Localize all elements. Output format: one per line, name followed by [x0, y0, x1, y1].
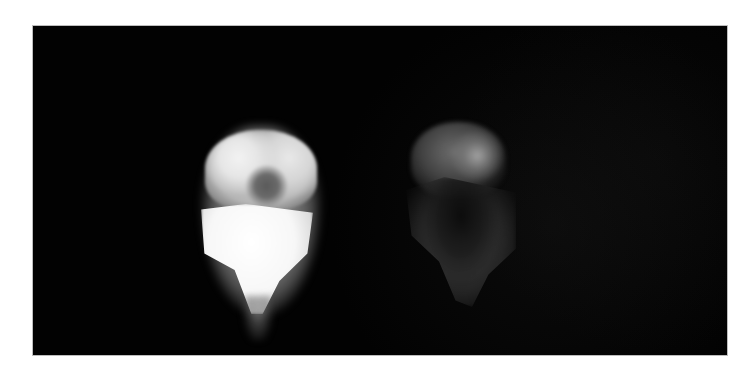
image-panel [33, 26, 727, 355]
dim-uptake-region [401, 122, 521, 322]
bright-region-upper-lobe [205, 130, 317, 210]
bright-region-tail [243, 296, 273, 341]
bright-uptake-region [193, 126, 343, 346]
dim-region-lower-lobe [406, 177, 516, 307]
background-noise [33, 26, 727, 355]
